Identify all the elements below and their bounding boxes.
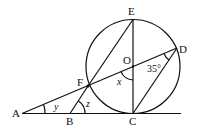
geometry-diagram: E D O F A B C 35° x y z (0, 0, 202, 129)
angle-arc-z (79, 101, 86, 114)
label-c: C (129, 115, 136, 127)
angle-arc-35 (164, 54, 169, 61)
label-a: A (12, 107, 20, 119)
label-x: x (116, 76, 122, 87)
label-f: F (77, 76, 83, 88)
point-o-dot (132, 65, 134, 67)
point-f-dot (86, 84, 89, 87)
label-b: B (66, 115, 73, 127)
label-z: z (85, 98, 90, 109)
angle-arc-y (44, 105, 46, 114)
label-o: O (123, 54, 131, 66)
label-d: D (179, 43, 187, 55)
label-35: 35° (147, 63, 161, 74)
label-e: E (128, 5, 135, 17)
label-y: y (53, 101, 59, 112)
angle-arc-x (121, 72, 133, 81)
secant-ad (22, 48, 177, 114)
